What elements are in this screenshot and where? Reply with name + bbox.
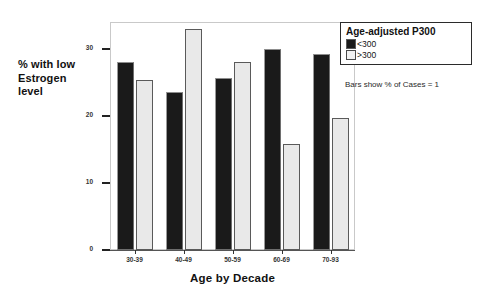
x-tick-mark [184, 250, 185, 254]
y-tick-mark [102, 182, 110, 184]
bar [313, 54, 330, 250]
bar-group [215, 22, 251, 250]
y-tick-mark [102, 249, 110, 251]
x-tick-label: 70-93 [311, 256, 351, 263]
x-tick-mark [331, 250, 332, 254]
y-tick-label: 20 [86, 111, 93, 118]
bar-group [117, 22, 153, 250]
x-tick-label: 30-39 [115, 256, 155, 263]
legend-title: Age-adjusted P300 [346, 26, 466, 38]
bar-chart: % with low Estrogen level 0102030 30-394… [0, 0, 479, 302]
legend-swatch-icon-dark [346, 39, 356, 49]
y-tick-label: 30 [86, 44, 93, 51]
legend-swatch-icon-light [346, 50, 356, 60]
x-tick-mark [233, 250, 234, 254]
bar [264, 49, 281, 250]
y-tick-mark [102, 115, 110, 117]
y-axis-title-line-1: % with low [18, 58, 102, 72]
y-axis-title-line-2: Estrogen [18, 72, 102, 86]
bar [185, 29, 202, 250]
legend: Age-adjusted P300 <300 >300 [340, 22, 472, 65]
bar [215, 78, 232, 250]
bars-layer [110, 22, 355, 250]
y-tick-label: 10 [86, 178, 93, 185]
x-tick-label: 50-59 [213, 256, 253, 263]
bar [117, 62, 134, 250]
bar [234, 62, 251, 250]
y-tick-mark [102, 48, 110, 50]
x-tick-label: 60-69 [262, 256, 302, 263]
x-tick-mark [282, 250, 283, 254]
legend-label-gt300: >300 [357, 50, 376, 60]
y-axis-title: % with low Estrogen level [18, 58, 102, 99]
x-tick-mark [135, 250, 136, 254]
chart-footnote: Bars show % of Cases = 1 [345, 80, 439, 89]
bar [136, 80, 153, 250]
bar-group [264, 22, 300, 250]
bar [283, 144, 300, 250]
legend-item-gt300: >300 [346, 50, 466, 60]
legend-label-lt300: <300 [357, 39, 376, 49]
y-axis-title-line-3: level [18, 85, 102, 99]
legend-item-lt300: <300 [346, 39, 466, 49]
x-axis-title: Age by Decade [110, 272, 355, 284]
bar [332, 118, 349, 250]
x-tick-label: 40-49 [164, 256, 204, 263]
bar-group [166, 22, 202, 250]
y-tick-label: 0 [89, 245, 93, 252]
bar [166, 92, 183, 250]
